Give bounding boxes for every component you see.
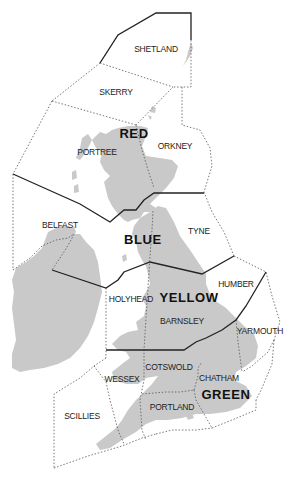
region-label-yellow: YELLOW [159, 290, 218, 305]
zone-label-barnsley: BARNSLEY [160, 316, 204, 326]
zone-label-chatham: CHATHAM [199, 373, 239, 383]
zone-label-skerry: SKERRY [99, 87, 133, 97]
ireland [12, 226, 102, 372]
england-wales [96, 206, 258, 450]
uk-zone-map: SHETLAND SKERRY PORTREE ORKNEY BELFAST T… [0, 0, 294, 482]
region-label-blue: BLUE [124, 232, 162, 247]
zone-label-shetland: SHETLAND [134, 44, 178, 54]
region-label-red: RED [119, 126, 148, 141]
zone-label-holyhead: HOLYHEAD [109, 294, 154, 304]
western-isles [72, 134, 92, 193]
zone-label-tyne: TYNE [188, 226, 210, 236]
zone-label-portree: PORTREE [77, 147, 117, 157]
shetland-islands [183, 42, 193, 66]
zone-label-portland: PORTLAND [150, 402, 195, 412]
zone-label-yarmouth: YARMOUTH [237, 326, 283, 336]
zone-label-wessex: WESSEX [104, 374, 140, 384]
zone-label-scillies: SCILLIES [64, 411, 100, 421]
zone-label-belfast: BELFAST [42, 220, 78, 230]
zone-label-cotswold: COTSWOLD [145, 362, 193, 372]
isle-of-man [122, 254, 127, 262]
region-label-green: GREEN [201, 387, 250, 402]
red-region-outer [100, 13, 191, 63]
zone-label-humber: HUMBER [218, 279, 254, 289]
zone-label-orkney: ORKNEY [158, 141, 193, 151]
